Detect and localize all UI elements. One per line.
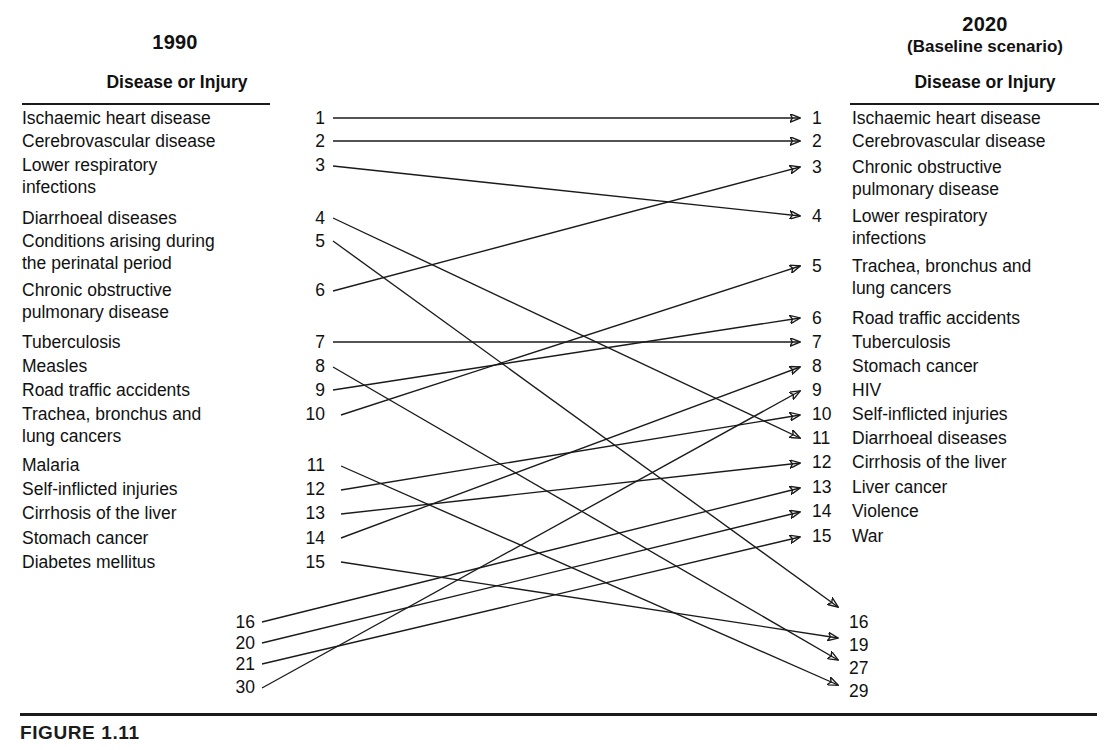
connector-lines bbox=[262, 118, 838, 688]
connector-3-to-4 bbox=[333, 166, 800, 216]
connector-30-to-9 bbox=[262, 391, 800, 688]
connector-5-to-16 bbox=[333, 241, 838, 607]
connector-20-to-14 bbox=[262, 512, 800, 643]
figure-container: 1990 Disease or Injury 2020 (Baseline sc… bbox=[0, 0, 1119, 750]
figure-caption-label: FIGURE 1.11 bbox=[20, 722, 140, 744]
connector-4-to-11 bbox=[333, 218, 800, 438]
caption-rule bbox=[20, 713, 1097, 716]
connector-6-to-3 bbox=[333, 167, 800, 291]
connector-9-to-6 bbox=[333, 318, 800, 390]
connector-11-to-29 bbox=[341, 466, 838, 685]
connector-13-to-12 bbox=[341, 463, 800, 514]
connector-21-to-15 bbox=[262, 537, 800, 664]
connector-15-to-19 bbox=[341, 562, 838, 638]
connector-lines-layer bbox=[0, 0, 1119, 750]
connector-16-to-13 bbox=[262, 488, 800, 622]
connector-8-to-27 bbox=[333, 367, 838, 660]
